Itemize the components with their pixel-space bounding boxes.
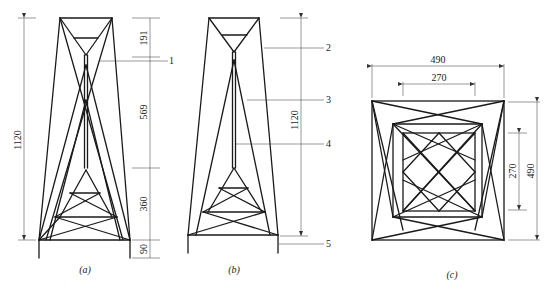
dim-c-outer-width: 490 bbox=[431, 54, 446, 65]
callout-5: 5 bbox=[326, 238, 331, 249]
panel-a-tower-elevation: 1120 191 569 360 90 1 (a) bbox=[12, 18, 174, 276]
dim-a-overall-height: 1120 bbox=[12, 130, 23, 150]
callout-3: 3 bbox=[326, 94, 331, 105]
callout-2: 2 bbox=[326, 42, 331, 53]
callout-1: 1 bbox=[169, 55, 174, 66]
dim-a-segment-569: 569 bbox=[138, 105, 149, 120]
dim-c-inner-height: 270 bbox=[507, 164, 518, 179]
dim-a-segment-360: 360 bbox=[138, 197, 149, 212]
callout-4: 4 bbox=[326, 138, 331, 149]
dim-a-segment-90: 90 bbox=[138, 244, 149, 254]
dim-b-overall-height: 1120 bbox=[289, 110, 300, 130]
caption-a: (a) bbox=[79, 264, 91, 276]
dim-c-outer-height: 490 bbox=[525, 164, 536, 179]
caption-c: (c) bbox=[446, 269, 458, 281]
caption-b: (b) bbox=[228, 264, 240, 276]
panel-b-tower-elevation: 1120 2 3 4 5 (b) bbox=[188, 18, 331, 276]
panel-c-tower-plan: 490 270 490 270 (c) bbox=[372, 54, 540, 281]
dim-a-segment-191: 191 bbox=[138, 31, 149, 46]
dim-c-inner-width: 270 bbox=[432, 72, 447, 83]
